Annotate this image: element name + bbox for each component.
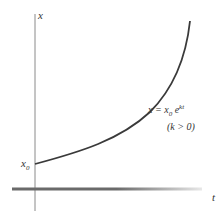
formula-exponent: kt [179,103,184,111]
intercept-subscript: 0 [26,164,30,172]
formula-label: x = x0 ekt [148,104,184,118]
exponential-growth-diagram [0,0,221,221]
t-axis-horizontal [12,188,202,191]
x-axis-label-text: t [212,191,215,203]
y-axis-label: x [38,10,43,21]
condition-label: (k > 0) [167,122,195,132]
formula-lhs: x = x [148,104,169,115]
x-axis-label: t [212,192,215,203]
intercept-label: x0 [21,158,29,172]
condition-text: (k > 0) [167,121,195,132]
exponential-curve [35,21,190,164]
y-axis-label-text: x [38,9,43,21]
